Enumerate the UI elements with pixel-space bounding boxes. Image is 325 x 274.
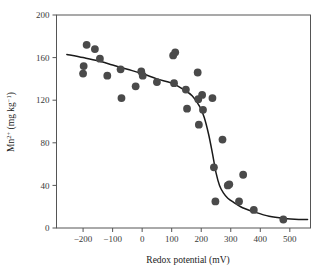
data-point: [219, 136, 227, 144]
data-point: [212, 197, 220, 205]
data-point: [195, 121, 203, 129]
x-tick-label: 200: [194, 234, 208, 244]
x-tick-label: 500: [283, 234, 297, 244]
x-axis-ticks: −200−1000100200300400500: [74, 228, 297, 244]
y-tick-label: 200: [36, 10, 50, 20]
data-point: [79, 70, 87, 78]
y-axis-title: Mn2+ (mg kg−1): [5, 92, 18, 152]
data-point: [198, 91, 206, 99]
data-point: [182, 86, 190, 94]
x-tick-label: −200: [74, 234, 93, 244]
data-point: [235, 197, 243, 205]
y-axis-title-unit: (mg kg: [6, 102, 17, 132]
y-axis-title-unit-close: ): [6, 92, 17, 95]
data-point: [279, 216, 287, 224]
x-tick-label: 300: [224, 234, 238, 244]
data-point: [91, 45, 99, 53]
x-tick-label: 400: [254, 234, 268, 244]
data-point: [194, 69, 202, 77]
data-point: [96, 55, 104, 63]
data-point: [170, 79, 178, 87]
data-point: [117, 65, 125, 73]
data-point: [118, 94, 126, 102]
data-point: [83, 41, 91, 49]
y-tick-label: 160: [36, 53, 50, 63]
fit-curve-line: [67, 54, 308, 219]
data-point: [199, 106, 207, 114]
data-point: [183, 105, 191, 113]
data-point: [210, 163, 218, 171]
x-tick-label: −100: [103, 234, 122, 244]
data-point: [103, 72, 111, 80]
data-point: [171, 48, 179, 56]
y-axis-title-main: Mn: [6, 138, 16, 151]
data-point: [132, 82, 140, 90]
y-axis-title-unit-superscript: −1: [5, 95, 12, 102]
y-tick-label: 40: [41, 181, 51, 191]
data-point: [139, 72, 147, 80]
y-axis-ticks: 04080120160200: [36, 10, 57, 233]
scatter-plot: −200−1000100200300400500 04080120160200 …: [0, 0, 325, 274]
y-tick-label: 120: [36, 95, 50, 105]
data-point: [153, 78, 161, 86]
data-point: [225, 180, 233, 188]
data-point: [239, 171, 247, 179]
data-point: [250, 206, 258, 214]
x-tick-label: 100: [165, 234, 179, 244]
data-points: [79, 41, 287, 223]
data-point: [80, 62, 88, 70]
y-tick-label: 80: [41, 138, 51, 148]
x-tick-label: 0: [140, 234, 145, 244]
chart-figure: −200−1000100200300400500 04080120160200 …: [0, 0, 325, 274]
data-point: [209, 94, 217, 102]
x-axis-title: Redox potential (mV): [146, 255, 229, 266]
y-tick-label: 0: [45, 223, 50, 233]
fit-curve: [67, 54, 308, 219]
